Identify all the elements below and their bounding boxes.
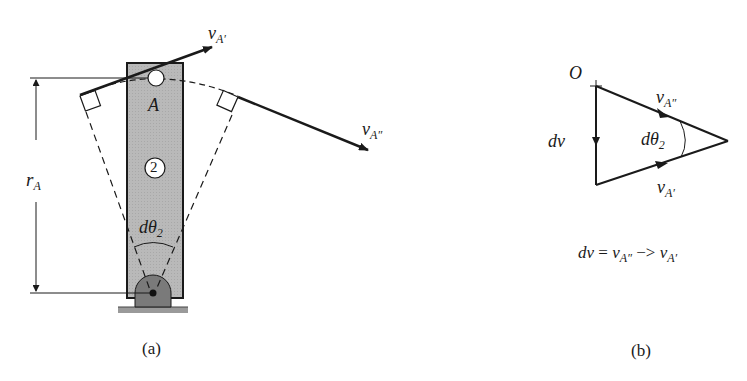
pivot-pin	[150, 290, 157, 297]
label-sub: 2	[659, 138, 665, 152]
label-dv: dv	[548, 132, 565, 150]
label-main: v	[208, 23, 216, 43]
label-sub: A	[33, 179, 40, 193]
label-main: dθ	[139, 217, 157, 237]
label-main: v	[362, 119, 370, 139]
label-main: dθ	[641, 129, 659, 149]
label-v-A-double-prime-b: vA″	[656, 88, 676, 109]
label-v-A-double-prime: vA″	[362, 120, 382, 141]
equation-operator: −>	[636, 243, 655, 262]
caption-a: (a)	[142, 340, 161, 357]
point-A-marker	[148, 70, 164, 86]
label-d-theta-2-a: dθ2	[139, 218, 163, 239]
equation-equals: =	[598, 243, 608, 262]
label-sub: A″	[370, 128, 382, 142]
term-main: v	[612, 243, 620, 262]
label-r-A: rA	[26, 168, 41, 194]
label-sub: A′	[665, 186, 675, 200]
label-v-A-prime: vA′	[208, 24, 226, 45]
kinematics-diagram	[0, 0, 747, 381]
label-main: v	[657, 177, 665, 197]
equation-lhs: dv	[578, 243, 594, 262]
label-main: v	[656, 87, 664, 107]
d-theta-arc-b	[680, 121, 685, 157]
label-sub: A′	[216, 32, 226, 46]
label-point-A: A	[148, 96, 159, 114]
ground	[118, 307, 188, 313]
label-origin-O: O	[569, 64, 582, 82]
term-sub: A″	[620, 251, 632, 265]
label-d-theta-2-b: dθ2	[641, 130, 665, 151]
equation-term1: vA″	[612, 243, 632, 262]
label-sub: 2	[157, 226, 163, 240]
right-angle-marker-right	[217, 90, 238, 111]
label-v-A-prime-b: vA′	[657, 178, 675, 199]
label-link-number: 2	[150, 160, 158, 175]
equation-term2: vA′	[660, 243, 678, 262]
figure-a	[30, 47, 368, 313]
label-sub: A″	[664, 96, 676, 110]
velocity-vector-A-double-prime	[238, 97, 368, 150]
caption-b: (b)	[631, 342, 651, 359]
equation-dv: dv = vA″ −> vA′	[578, 244, 677, 264]
term-sub: A′	[667, 251, 677, 265]
